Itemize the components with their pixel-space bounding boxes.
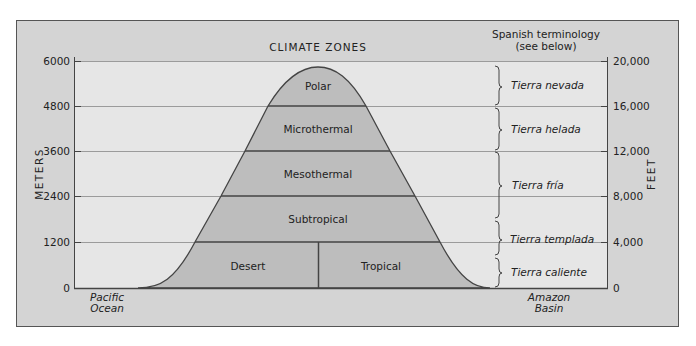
right-axis-title: FEET — [645, 158, 657, 190]
label-amazon-line2: Basin — [535, 302, 564, 314]
right-tick-0: 0 — [613, 282, 620, 294]
label-pacific-line2: Ocean — [90, 302, 124, 314]
left-axis-title: METERS — [33, 148, 45, 200]
left-tick-4800: 4800 — [43, 100, 70, 112]
zone-label-desert: Desert — [231, 260, 266, 272]
left-tick-0: 0 — [63, 282, 70, 294]
left-tick-3600: 3600 — [43, 145, 70, 157]
right-tick-8000: 8,000 — [613, 190, 643, 202]
chart-title: CLIMATE ZONES — [269, 41, 367, 53]
left-tick-6000: 6000 — [43, 55, 70, 67]
term-tierra-helada: Tierra helada — [511, 123, 581, 135]
right-tick-12000: 12,000 — [613, 145, 650, 157]
right-tick-20000: 20,000 — [613, 55, 650, 67]
zone-label-subtropical: Subtropical — [288, 213, 347, 225]
term-tierra-fria: Tierra fría — [512, 179, 564, 191]
left-tick-1200: 1200 — [43, 236, 70, 248]
term-tierra-nevada: Tierra nevada — [511, 79, 584, 91]
spanish-header-line2: (see below) — [516, 40, 577, 52]
term-tierra-templada: Tierra templada — [510, 233, 594, 245]
term-tierra-caliente: Tierra caliente — [511, 266, 587, 278]
zone-label-microthermal: Microthermal — [283, 123, 352, 135]
zone-label-polar: Polar — [305, 80, 332, 92]
zone-label-mesothermal: Mesothermal — [284, 168, 352, 180]
right-tick-4000: 4,000 — [613, 236, 643, 248]
climate-zones-diagram: 6000 4800 3600 2400 1200 0 METERS 20,000… — [0, 0, 696, 346]
spanish-header-line1: Spanish terminology — [492, 28, 600, 40]
zone-label-tropical: Tropical — [360, 260, 401, 272]
left-tick-2400: 2400 — [43, 190, 70, 202]
right-tick-16000: 16,000 — [613, 100, 650, 112]
